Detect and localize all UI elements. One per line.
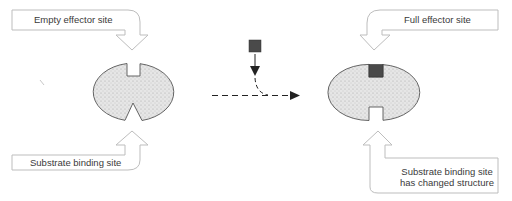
label-empty-effector-site: Empty effector site	[34, 14, 113, 25]
bound-effector	[369, 65, 383, 78]
label-substrate-binding-site: Substrate binding site	[30, 157, 121, 168]
stray-mark	[40, 80, 44, 85]
label-changed-substrate-site: Substrate binding site has changed struc…	[392, 166, 502, 188]
label-full-effector-site: Full effector site	[404, 14, 471, 25]
effector-molecule	[249, 40, 261, 52]
binding-arrow	[250, 54, 268, 95]
label-line-1: Substrate binding site	[392, 166, 502, 177]
transition-arrow	[212, 91, 300, 100]
allosteric-diagram: Empty effector site Substrate binding si…	[0, 0, 512, 201]
label-line-2: has changed structure	[392, 177, 502, 188]
enzyme-bound	[328, 64, 420, 120]
enzyme-unbound	[93, 64, 174, 121]
